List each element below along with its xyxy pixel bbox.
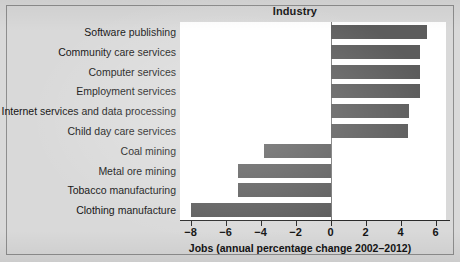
bar xyxy=(238,164,331,178)
category-label: Computer services xyxy=(0,66,176,78)
bar xyxy=(331,45,420,59)
x-tick-label: −2 xyxy=(276,226,316,238)
category-label: Tobacco manufacturing xyxy=(0,184,176,196)
x-tick-label: 0 xyxy=(311,226,351,238)
category-label: Metal ore mining xyxy=(0,165,176,177)
x-tick-label: 2 xyxy=(346,226,386,238)
plot-area xyxy=(180,22,446,220)
category-label: Coal mining xyxy=(0,145,176,157)
category-label: Child day care services xyxy=(0,125,176,137)
bar xyxy=(331,84,420,98)
bar xyxy=(331,65,420,79)
bar xyxy=(238,183,331,197)
x-tick-label: −6 xyxy=(206,226,246,238)
chart-title: Industry xyxy=(0,5,317,17)
bar xyxy=(264,144,331,158)
bar xyxy=(331,25,427,39)
category-label: Employment services xyxy=(0,85,176,97)
category-axis-labels: Software publishingCommunity care servic… xyxy=(0,22,176,220)
category-label: Internet services and data processing xyxy=(0,105,176,117)
bar xyxy=(191,203,331,217)
category-label: Software publishing xyxy=(0,26,176,38)
bar xyxy=(331,124,408,138)
category-label: Clothing manufacture xyxy=(0,204,176,216)
x-tick-label: −8 xyxy=(171,226,211,238)
bar xyxy=(331,104,410,118)
chart-figure: Industry Software publishingCommunity ca… xyxy=(0,0,460,262)
x-tick-label: −4 xyxy=(241,226,281,238)
x-tick-label: 6 xyxy=(416,226,456,238)
x-tick-label: 4 xyxy=(381,226,421,238)
x-axis-label: Jobs (annual percentage change 2002–2012… xyxy=(150,242,450,254)
x-axis-line xyxy=(180,220,450,221)
category-label: Community care services xyxy=(0,46,176,58)
